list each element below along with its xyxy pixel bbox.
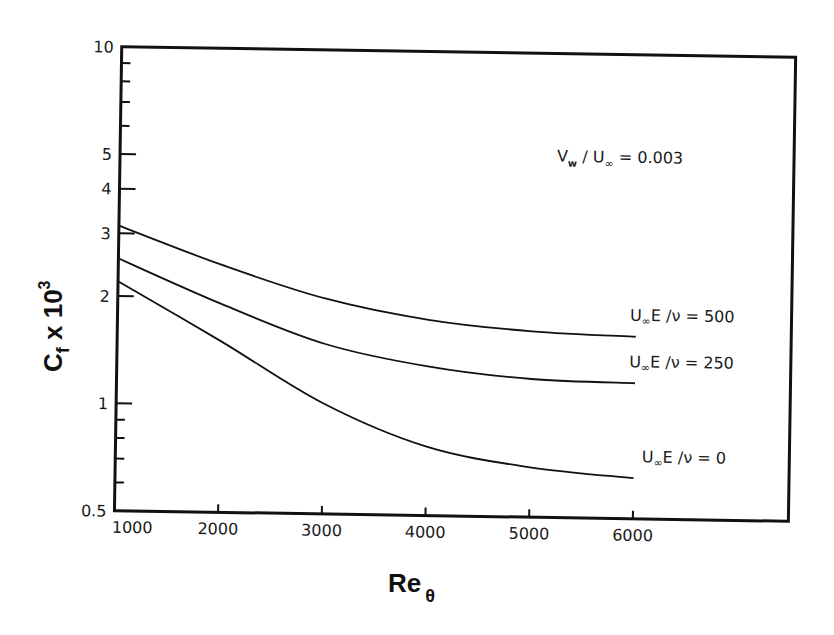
chart: 0.51234510 100020003000400050006000 U∞E … <box>0 0 834 635</box>
curve-label-1: U∞E /ν = 250 <box>629 352 734 376</box>
x-axis-ticks: 100020003000400050006000 <box>112 503 654 545</box>
curve-label-2: U∞E /ν = 0 <box>642 447 727 470</box>
x-tick-label: 1000 <box>112 518 153 538</box>
x-axis-title: Reθ <box>388 568 435 606</box>
y-tick-label: 1 <box>98 394 108 413</box>
x-tick-label: 4000 <box>405 522 446 542</box>
y-tick-label: 10 <box>93 37 114 56</box>
velocity-ratio-annotation: Vw / U∞ = 0.003 <box>557 147 683 172</box>
x-tick-label: 2000 <box>197 519 238 539</box>
y-tick-label: 4 <box>101 179 111 198</box>
y-tick-label: 2 <box>99 287 109 306</box>
y-tick-label: 5 <box>102 145 112 164</box>
x-tick-label: 3000 <box>301 521 342 541</box>
x-tick-label: 6000 <box>612 526 653 546</box>
curve-label-0: U∞E /ν = 500 <box>630 306 735 330</box>
x-tick-label: 5000 <box>508 524 549 544</box>
curve-series-1 <box>117 258 637 383</box>
y-axis-title: Cf x 103 <box>36 280 73 372</box>
y-tick-label: 3 <box>100 224 110 243</box>
data-curves <box>115 226 637 479</box>
curve-series-0 <box>117 226 637 337</box>
y-axis-ticks: 0.51234510 <box>81 37 138 521</box>
y-tick-label: 0.5 <box>81 501 107 520</box>
curve-labels: U∞E /ν = 500U∞E /ν = 250U∞E /ν = 0 <box>628 306 735 471</box>
